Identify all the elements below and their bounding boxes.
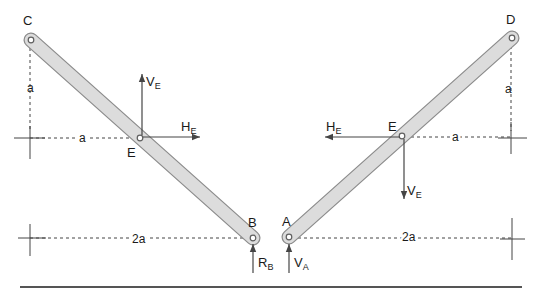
label-a-left-horizontal: a bbox=[79, 131, 86, 145]
pin-A bbox=[286, 234, 292, 240]
label-B: B bbox=[248, 215, 257, 230]
label-E-left: E bbox=[127, 145, 136, 160]
pin-C bbox=[28, 37, 34, 43]
label-a-left-vertical: a bbox=[27, 81, 34, 95]
label-2a-left: 2a bbox=[132, 232, 146, 246]
label-A: A bbox=[282, 214, 291, 229]
label-VE-left: VE bbox=[146, 74, 161, 91]
label-HE-left: HE bbox=[181, 119, 196, 136]
label-HE-right: HE bbox=[326, 119, 341, 136]
figure: CDBAEEaaaa2a2aVEHEHEVERBVA bbox=[0, 0, 542, 298]
force-HE-right-arrow-head bbox=[325, 134, 333, 140]
reaction-RB-arrow-head bbox=[250, 244, 256, 252]
label-E-right: E bbox=[388, 119, 397, 134]
label-VE-right: VE bbox=[407, 183, 422, 200]
label-a-right-vertical: a bbox=[505, 82, 512, 96]
force-VE-left-arrow-head bbox=[139, 74, 145, 82]
pin-D bbox=[509, 35, 515, 41]
label-D: D bbox=[506, 12, 515, 27]
label-VA: VA bbox=[294, 255, 309, 272]
pin-E-right bbox=[399, 133, 405, 139]
label-RB: RB bbox=[258, 255, 273, 272]
label-a-right-horizontal: a bbox=[452, 130, 459, 144]
pin-E-left bbox=[137, 135, 143, 141]
label-2a-right: 2a bbox=[402, 230, 416, 244]
label-C: C bbox=[23, 13, 32, 28]
diagram-svg: CDBAEEaaaa2a2aVEHEHEVERBVA bbox=[0, 0, 542, 298]
reaction-VA-arrow-head bbox=[286, 244, 292, 252]
pin-B bbox=[250, 235, 256, 241]
